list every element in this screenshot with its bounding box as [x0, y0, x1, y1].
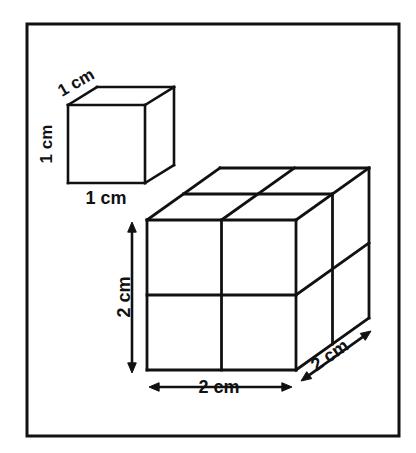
large-cube-width-label: 2 cm [198, 377, 239, 397]
small-cube-width-label: 1 cm [85, 188, 126, 208]
large-cube-height-label: 2 cm [114, 276, 134, 317]
small-cube-height-label: 1 cm [37, 125, 56, 164]
diagram-canvas: Unit cube and 2 cm cube volume compariso… [0, 0, 416, 453]
cube-volume-diagram: Unit cube and 2 cm cube volume compariso… [0, 0, 416, 453]
